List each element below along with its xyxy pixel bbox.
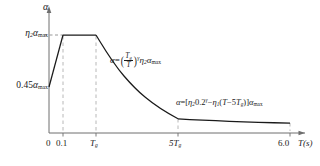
formula2-alpha-subscript: max [253,101,262,107]
alpha-subscript: max [38,84,48,90]
y-axis [47,6,52,133]
right-paren-icon: ) [133,54,136,68]
5tg-subscript: g [179,142,182,148]
alpha-subscript: max [38,32,48,38]
formula2-const: 0.2 [195,97,206,107]
left-paren-icon: ( [120,54,123,68]
y-tick-label-eta2-alpha-max: η2αmax [25,29,48,39]
formula2-equals-bracket: =[ [180,97,188,107]
x-tick-label-01: 0.1 [56,139,67,148]
x-tick-label-60: 6.0 [278,139,289,148]
y-axis-label: α [43,2,48,12]
x-tick-label-5tg: 5Tg [169,139,181,149]
x-axis [49,131,305,136]
5tg-symbol: 5T [169,138,179,148]
x-tick-label-tg: Tg [90,139,98,149]
formula1-alpha-subscript: max [151,59,161,65]
x-axis-ticks [63,133,290,137]
x-axis-label: T(s) [298,139,313,148]
formula-power-decay-branch: α=(TgT)γη2αmax [110,52,161,70]
formula2-minus-five: −5 [227,97,236,107]
y-tick-label-045-alpha-max: 0.45αmax [16,81,48,91]
tg-subscript: g [95,142,98,148]
numerator-subscript: g [129,55,131,60]
x-tick-label-0: 0 [46,139,51,148]
formula1-fraction: TgT [124,52,132,70]
fraction-denominator: T [124,61,132,69]
coefficient-045: 0.45 [16,80,33,90]
formula1-equals: = [115,55,120,65]
curve-power-decay-branch [96,35,178,119]
curve-linear-decay-branch [178,119,290,123]
curve-rising-branch [49,35,63,87]
formula-linear-decay-branch: α=[η20.2γ−η1(T−5Tg)]αmax [176,98,263,107]
seismic-response-spectrum-figure: α η2αmax 0.45αmax 0 0.1 Tg 5Tg 6.0 T(s) … [0,0,320,166]
response-spectrum-curve [49,35,290,123]
